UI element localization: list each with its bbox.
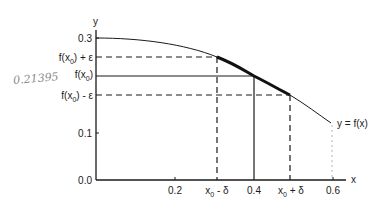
y-tick-label-0.0: 0.0 <box>78 175 92 186</box>
label-f-x0: f(x0) <box>75 69 93 82</box>
x-tick-label-0.6: 0.6 <box>326 185 340 196</box>
label-f-x0-plus-eps: f(x0) + ε <box>59 52 94 65</box>
handwritten-note: 0.21395 <box>13 70 59 87</box>
x-axis-label: x <box>351 174 356 185</box>
label-x0-plus-delta: x0 + δ <box>278 185 304 198</box>
y-tick-label-0.3: 0.3 <box>78 33 92 44</box>
y-tick-label-0.1: 0.1 <box>78 128 92 139</box>
x-tick-label-0.2: 0.2 <box>168 185 182 196</box>
curve-label: y = f(x) <box>337 118 368 129</box>
label-x0-minus-delta: x0 - δ <box>205 185 229 198</box>
y-axis-label: y <box>93 16 98 27</box>
function-curve <box>96 38 331 123</box>
epsilon-delta-diagram: y x 0.3 0.1 0.0 0.2 0.4 0.6 f(x0) + ε f(… <box>0 0 381 213</box>
x-tick-label-0.4: 0.4 <box>247 185 261 196</box>
label-f-x0-minus-eps: f(x0) - ε <box>61 90 93 103</box>
